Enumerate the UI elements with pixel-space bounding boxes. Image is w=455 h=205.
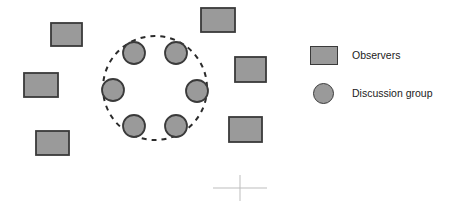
diagram-canvas: Observers Discussion group	[0, 0, 455, 205]
observer-seat	[51, 23, 82, 46]
observer-seat	[235, 57, 266, 82]
observer-seat	[201, 8, 235, 32]
observer-seat	[229, 117, 262, 142]
discussion-group-member	[102, 79, 124, 101]
observer-swatch-icon	[310, 46, 338, 65]
legend: Observers Discussion group	[310, 38, 450, 110]
legend-label-observers: Observers	[352, 50, 400, 61]
discussion-group-member	[165, 115, 187, 137]
legend-item-observers: Observers	[310, 38, 450, 72]
discussion-group-member	[123, 42, 145, 64]
discussion-group-member	[165, 42, 187, 64]
discussion-group-seats	[102, 42, 208, 137]
observer-seat	[36, 131, 69, 155]
observer-seat	[24, 73, 58, 97]
legend-label-discussion-group: Discussion group	[352, 88, 433, 99]
discussion-group-member	[186, 80, 208, 102]
registration-crosshair	[213, 175, 267, 201]
legend-item-discussion-group: Discussion group	[310, 76, 450, 110]
discussion-group-member	[123, 115, 145, 137]
discussion-group-swatch-icon	[313, 83, 334, 104]
observers-group	[24, 8, 266, 155]
